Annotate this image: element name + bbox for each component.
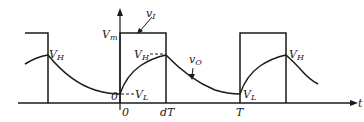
label-VL-right: VL <box>243 88 256 102</box>
tick-label-T: T <box>236 106 245 119</box>
label-vI: vI <box>146 7 156 21</box>
vI-pulse-1 <box>25 33 48 103</box>
vO-curve <box>25 55 318 94</box>
waveform-diagram: vI Vm VH VH VH vO VL VL 0 0 dT T t <box>0 0 364 122</box>
label-origin-zero: 0 <box>111 90 118 103</box>
label-VH-right: VH <box>289 48 305 62</box>
label-Vm: Vm <box>102 28 118 42</box>
label-VH-mid: VH <box>134 48 150 62</box>
v-axis-arrow-icon <box>117 8 123 16</box>
label-VH-left: VH <box>49 48 65 62</box>
waveform-svg: vI Vm VH VH VH vO VL VL 0 0 dT T t <box>0 0 364 122</box>
label-VL-mid: VL <box>135 88 148 102</box>
t-axis-arrow-icon <box>350 100 358 106</box>
t-axis-label: t <box>358 97 363 110</box>
tick-label-0: 0 <box>122 106 129 119</box>
tick-label-dT: dT <box>160 106 176 119</box>
label-vO: vO <box>189 53 202 67</box>
